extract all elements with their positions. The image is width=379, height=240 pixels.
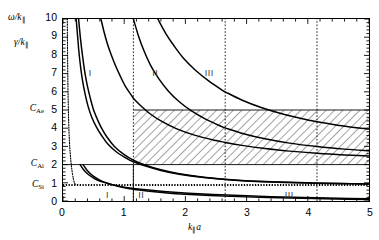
y-level-label-C_Ai: CAi [16,158,44,169]
region-label-lower-II: II [138,190,144,200]
x-tick-label-2: 2 [174,206,196,218]
plot-svg [63,19,369,201]
y-tick-label-3: 3 [41,140,57,152]
region-label-upper-I: I [89,68,92,78]
x-tick-label-0: 0 [51,206,73,218]
region-label-upper-III: III [205,68,214,78]
y-axis-secondary-label: γ/k∥ [14,37,29,49]
y-level-label-C_Si: CSi [16,179,44,190]
plot-area: IIIIII IIIIII [62,18,370,202]
y-tick-label-8: 8 [41,48,57,60]
curve-branch-left-dotted-spike [67,19,75,185]
region-label-lower-I: I [106,190,109,200]
x-axis-label: k∥a [188,222,201,234]
hatch-rect [133,110,369,165]
curve-branch-lower-gamma-2 [83,165,369,200]
y-tick-label-7: 7 [41,66,57,78]
y-tick-label-10: 10 [41,11,57,23]
x-tick-label-4: 4 [297,206,319,218]
y-tick-label-4: 4 [41,121,57,133]
y-tick-label-9: 9 [41,29,57,41]
y-tick-label-6: 6 [41,85,57,97]
x-tick-label-5: 5 [359,206,379,218]
x-tick-label-3: 3 [236,206,258,218]
region-label-upper-II: II [152,68,158,78]
y-axis-primary-label: ω/k∥ [8,12,26,24]
x-tick-label-1: 1 [113,206,135,218]
y-level-label-C_Ae: CAe [16,103,44,114]
hatched-continuum-band [133,110,369,165]
region-label-lower-III: III [285,190,294,200]
figure-root: IIIIII IIIIII 012345678910 CAeCAiCSi 012… [0,0,379,240]
data-curves [67,19,369,199]
curve-branch-lower-gamma-1 [80,165,369,199]
